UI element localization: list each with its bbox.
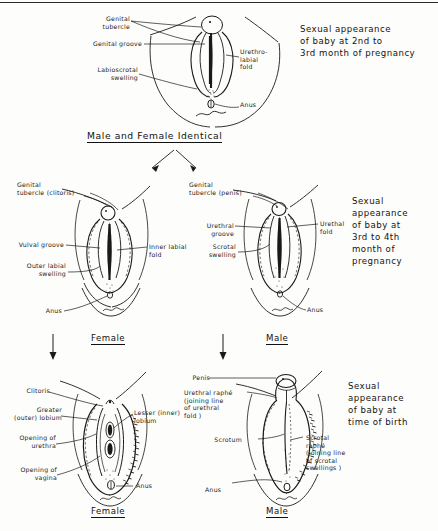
label-genital-tubercle-penis: Genital tubercle (penis) (189, 181, 281, 196)
caption-stage2-line1: Sexual (352, 196, 384, 208)
caption-stage1-line3: 3rd month of pregnancy (300, 48, 415, 60)
caption-stage2-line2: appearance (352, 208, 408, 220)
caption-stage1-line2: of baby at 2nd to (300, 36, 383, 48)
diagram-page: Genital tubercle Genital groove Labioscr… (0, 0, 438, 531)
label-genital-tubercle-clitoris: Genital tubercle (clitoris) (17, 181, 107, 196)
label-scrotal-swelling: Scrotal swelling (186, 243, 236, 258)
label-clitoris: Clitoris (8, 387, 50, 395)
caption-stage3-line4: time of birth (348, 417, 408, 429)
sex-label-male-mid: Male (266, 333, 288, 345)
label-urethral-groove: Urethral groove (186, 222, 234, 237)
caption-stage3-line2: appearance (348, 393, 404, 405)
label-outer-labial-swelling: Outer labial swelling (2, 262, 66, 277)
caption-stage3-line3: of baby at (348, 405, 397, 417)
label-greater-outer-lobium: Greater (outer) lobium (0, 406, 62, 421)
label-anus-female-mid: Anus (28, 307, 62, 315)
label-urethro-labial-fold: Urethro- labial fold (240, 48, 296, 71)
label-anus-male-birth: Anus (205, 486, 239, 494)
label-scrotal-raphe: Scrotal raphé (joining line of scrotal s… (306, 434, 368, 472)
label-anus-female-birth: Anus (136, 482, 170, 490)
caption-stage2-line4: 3rd to 4th (352, 232, 400, 244)
caption-stage3-line1: Sexual (348, 381, 380, 393)
label-opening-of-vagina: Opening of vagina (0, 466, 57, 481)
sex-label-female-birth: Female (91, 506, 125, 518)
label-vulval-groove: Vulval groove (2, 241, 64, 249)
label-penis: Penis (178, 374, 210, 382)
label-genital-groove: Genital groove (50, 40, 142, 48)
caption-stage2-line5: month of (352, 244, 395, 256)
stage-header-identical: Male and Female Identical (87, 130, 222, 143)
label-anus-male-mid: Anus (307, 306, 341, 314)
label-scrotum: Scrotum (198, 436, 242, 444)
caption-stage2-line3: of baby at (352, 220, 401, 232)
label-genital-tubercle: Genital tubercle (56, 15, 130, 30)
panel-indifferent-art (131, 16, 280, 172)
label-opening-of-urethra: Opening of urethra (0, 434, 56, 449)
sex-label-female-mid: Female (91, 333, 125, 345)
caption-stage2-line6: pregnancy (352, 256, 402, 268)
caption-stage1-line1: Sexual appearance (300, 24, 391, 36)
panel-female-birth-art (49, 372, 147, 506)
sex-label-male-birth: Male (266, 506, 288, 518)
label-labioscrotal-swelling: Labioscrotal swelling (46, 66, 138, 81)
label-anus-indifferent: Anus (240, 101, 280, 109)
label-urethral-raphe: Urethral raphé (joining line of urethral… (184, 389, 250, 419)
